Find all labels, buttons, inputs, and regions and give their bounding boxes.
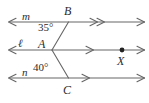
- line-label-m: m: [22, 11, 30, 22]
- point-label-C: C: [63, 84, 71, 96]
- point-label-X: X: [117, 55, 124, 67]
- point-label-B: B: [64, 5, 71, 17]
- segment-AB-stroke: [52, 22, 69, 50]
- geometry-figure: m ℓ n A B C X 35° 40°: [0, 0, 149, 103]
- line-label-l: ℓ: [18, 38, 23, 49]
- line-n-group: [9, 74, 146, 82]
- point-X-dot: [120, 48, 125, 53]
- segment-AC-stroke: [52, 50, 69, 78]
- line-label-n: n: [22, 67, 28, 78]
- line-l-group: [9, 46, 146, 54]
- angle-label-35: 35°: [38, 22, 53, 33]
- point-label-A: A: [38, 38, 45, 50]
- angle-label-40: 40°: [33, 62, 48, 73]
